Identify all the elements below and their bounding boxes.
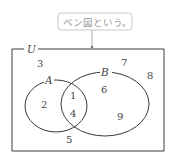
set-b-circle bbox=[61, 72, 149, 136]
callout-text: ベン図という。 bbox=[63, 17, 132, 28]
element-outside: 3 bbox=[37, 58, 43, 69]
element-outside: 7 bbox=[121, 57, 127, 68]
set-b-label: B bbox=[100, 66, 109, 78]
set-a-circle bbox=[25, 80, 87, 132]
element-intersection: 1 bbox=[70, 90, 76, 101]
universe-border bbox=[12, 49, 164, 151]
universe-set: U bbox=[12, 43, 164, 151]
callout: ベン図という。 bbox=[58, 13, 132, 48]
element-b-only: 6 bbox=[101, 84, 107, 95]
element-a-only: 2 bbox=[41, 99, 47, 110]
set-a: A bbox=[25, 74, 87, 132]
element-outside: 8 bbox=[147, 70, 153, 81]
element-intersection: 4 bbox=[70, 108, 76, 119]
element-b-only: 9 bbox=[117, 111, 123, 122]
callout-pointer-dot bbox=[91, 46, 94, 49]
universe-label: U bbox=[27, 43, 37, 55]
set-a-label: A bbox=[44, 74, 53, 86]
venn-diagram: ベン図という。 U A B 3 7 8 5 2 1 4 6 9 bbox=[0, 0, 179, 161]
element-outside: 5 bbox=[66, 134, 72, 145]
set-b: B bbox=[61, 66, 149, 136]
